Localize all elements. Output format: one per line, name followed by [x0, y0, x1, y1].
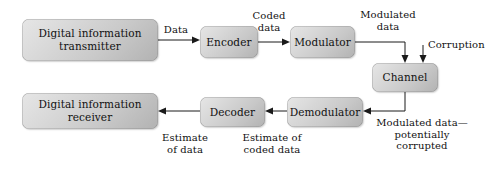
node-demodulator: Demodulator [287, 97, 363, 127]
arrowhead-decoder-in [265, 108, 273, 115]
arrowhead-demodulator-in [363, 108, 371, 115]
edge-label-modulated-corrupted: Modulated data— potentially corrupted [360, 117, 484, 152]
node-channel: Channel [372, 63, 438, 92]
node-channel-label: Channel [380, 71, 431, 84]
node-demodulator-label: Demodulator [287, 106, 364, 119]
node-receiver: Digital information receiver [22, 93, 158, 129]
edge-label-coded-data: Coded data [238, 10, 300, 33]
wire-channel-to-demodulator [370, 92, 405, 111]
node-decoder-label: Decoder [207, 106, 259, 119]
edge-label-estimate-of-data: Estimate of data [152, 132, 218, 155]
edge-label-modulated-data: Modulated data [350, 9, 426, 32]
node-transmitter-label: Digital information transmitter [35, 27, 144, 52]
arrowhead-encoder-in [192, 37, 200, 44]
node-encoder-label: Encoder [203, 36, 254, 49]
edge-label-estimate-coded-data: Estimate of coded data [225, 132, 319, 155]
wire-modulator-to-channel [355, 42, 405, 56]
arrowhead-channel-in-corruption [420, 55, 427, 63]
arrowhead-modulator-in [282, 39, 290, 46]
node-receiver-label: Digital information receiver [35, 98, 144, 123]
node-decoder: Decoder [200, 97, 265, 127]
edge-label-data: Data [151, 24, 201, 36]
node-modulator-label: Modulator [291, 36, 354, 49]
edge-label-corruption: Corruption [428, 39, 498, 51]
arrowhead-receiver-in [158, 108, 166, 115]
node-transmitter: Digital information transmitter [22, 19, 158, 61]
block-diagram: Digital information transmitter Encoder … [0, 0, 498, 170]
arrowhead-channel-in-modulated [402, 55, 409, 63]
